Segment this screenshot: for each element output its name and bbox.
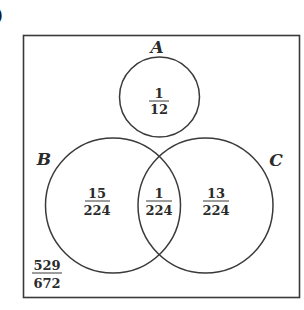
- fraction-numerator: 529: [33, 258, 60, 273]
- region-a-only-probability: 1 12: [149, 86, 169, 117]
- fraction-denominator: 224: [145, 203, 172, 218]
- fraction-numerator: 15: [88, 186, 106, 201]
- region-b-and-c-probability: 1 224: [145, 186, 172, 218]
- part-label-mark: ): [0, 3, 3, 27]
- fraction-numerator: 1: [154, 186, 163, 201]
- set-label-b: B: [36, 149, 51, 169]
- fraction-numerator: 13: [207, 186, 225, 201]
- fraction-denominator: 224: [83, 203, 110, 218]
- fraction-denominator: 12: [150, 102, 168, 117]
- venn-diagram: ) A B C 1 12 15 224 1 224 13 224 529 672: [0, 0, 304, 310]
- set-label-c: C: [269, 150, 283, 170]
- fraction-denominator: 224: [202, 203, 229, 218]
- set-label-a: A: [148, 37, 163, 57]
- region-outside-probability: 529 672: [32, 258, 62, 291]
- region-b-only-probability: 15 224: [83, 186, 110, 218]
- fraction-numerator: 1: [154, 86, 163, 101]
- universe-rectangle: [24, 36, 300, 298]
- region-c-only-probability: 13 224: [202, 186, 229, 218]
- fraction-denominator: 672: [33, 276, 60, 291]
